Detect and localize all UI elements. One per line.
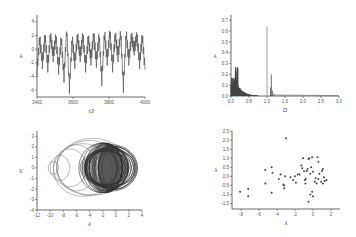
y-axis-label: λ'	[19, 168, 23, 174]
y-tick-label: 0.0	[223, 174, 230, 179]
x-tick-label: -10	[47, 213, 54, 218]
data-point	[264, 169, 266, 171]
x-tick-label: 4	[141, 213, 144, 218]
data-point	[295, 182, 297, 184]
chart-spectrum: 0.00.51.01.52.02.53.00.00.10.20.30.40.50…	[178, 0, 356, 118]
x-tick-label: 3600	[68, 100, 79, 105]
data-point	[271, 166, 273, 168]
data-point	[305, 178, 307, 180]
data-point	[304, 183, 306, 185]
x-axis-label: Ω	[283, 107, 288, 113]
y-tick-label: 0.5	[223, 165, 230, 170]
y-axis-label: λ	[214, 53, 217, 59]
data-point	[307, 168, 309, 170]
x-tick-label: 3.0	[336, 99, 343, 104]
data-point	[302, 157, 304, 159]
data-point	[294, 175, 296, 177]
x-tick-label: 0.5	[246, 99, 253, 104]
data-point	[280, 174, 282, 176]
y-tick-label: -6	[30, 88, 34, 93]
data-point	[297, 174, 299, 176]
x-tick-label: -2	[101, 213, 105, 218]
data-point	[321, 170, 323, 172]
data-point	[320, 181, 322, 183]
y-axis-label: λ	[20, 53, 23, 59]
time-series-plot: 3400360038004000-6-4-2024τ3λ	[0, 0, 178, 118]
y-tick-label: 0.4	[222, 50, 229, 55]
data-point	[312, 195, 314, 197]
data-point	[315, 177, 317, 179]
y-tick-label: 4	[31, 19, 34, 24]
x-tick-label: -4	[87, 213, 91, 218]
y-tick-label: 0.2	[222, 72, 229, 77]
y-tick-label: 0.1	[222, 83, 229, 88]
phase-portrait-plot: -12-10-8-6-4-2024-4-3-2-10123λλ'	[0, 118, 178, 237]
attractor	[48, 138, 137, 196]
spectrum-plot: 0.00.51.01.52.02.53.00.00.10.20.30.40.50…	[178, 0, 356, 118]
axes: 0.00.51.01.52.02.53.00.00.10.20.30.40.50…	[214, 15, 343, 113]
data-point	[306, 170, 308, 172]
y-tick-label: -3	[30, 197, 34, 202]
y-tick-label: -1.5	[221, 201, 229, 206]
x-tick-label: 3800	[104, 100, 115, 105]
x-tick-label: 0	[114, 213, 117, 218]
axes: 3400360038004000-6-4-2024τ3λ	[20, 15, 151, 114]
data-point	[308, 201, 310, 203]
data-point	[283, 184, 285, 186]
x-tick-label: 2	[330, 212, 333, 217]
x-tick-label: -6	[257, 212, 261, 217]
data-point	[316, 183, 318, 185]
data-point	[299, 174, 301, 176]
data-point	[318, 173, 320, 175]
data-point	[247, 188, 249, 190]
chart-time-series: 3400360038004000-6-4-2024τ3λ	[0, 0, 178, 118]
y-tick-label: 1.5	[223, 147, 230, 152]
x-tick-label: -8	[239, 212, 243, 217]
data-point	[326, 179, 328, 181]
return-map-plot: -8-6-4-202-1.5-1.0-0.50.00.51.01.52.02.5…	[178, 118, 356, 237]
data-point	[323, 176, 325, 178]
data-point	[247, 195, 249, 197]
y-tick-label: 2.5	[223, 129, 230, 134]
y-tick-label: 2.0	[223, 138, 230, 143]
data-point	[272, 172, 274, 174]
data-point	[301, 167, 303, 169]
y-tick-label: 3	[31, 134, 34, 139]
y-tick-label: 1	[31, 155, 34, 160]
x-axis-label: λ	[284, 220, 288, 226]
x-tick-label: 0	[312, 212, 315, 217]
data-point	[322, 168, 324, 170]
y-axis-label: λ	[215, 167, 218, 173]
y-tick-label: 2	[31, 144, 34, 149]
scatter-points	[239, 137, 327, 202]
data-point	[317, 161, 319, 163]
x-tick-label: 3400	[32, 100, 43, 105]
data-point	[314, 181, 316, 183]
y-tick-label: -4	[30, 208, 34, 213]
data-point	[322, 183, 324, 185]
x-tick-label: -6	[74, 213, 78, 218]
data-point	[300, 164, 302, 166]
axes: -8-6-4-202-1.5-1.0-0.50.00.51.01.52.02.5…	[215, 129, 341, 226]
y-tick-label: -4	[30, 74, 34, 79]
chart-phase-portrait: -12-10-8-6-4-2024-4-3-2-10123λλ'	[0, 118, 178, 237]
x-tick-label: 1.0	[264, 99, 271, 104]
x-axis-label: τ3	[88, 108, 94, 114]
data-point	[310, 166, 312, 168]
x-axis-label: λ	[87, 221, 91, 227]
data-point	[271, 192, 273, 194]
y-tick-label: 2	[31, 33, 34, 38]
y-tick-label: 0	[31, 47, 34, 52]
data-point	[312, 171, 314, 173]
x-tick-label: 0.0	[228, 99, 235, 104]
x-tick-label: -2	[293, 212, 297, 217]
y-tick-label: -2	[30, 60, 34, 65]
y-tick-label: 0.7	[222, 18, 229, 23]
data-point	[283, 187, 285, 189]
data-point	[309, 173, 311, 175]
data-point	[303, 170, 305, 172]
x-tick-label: -12	[34, 213, 41, 218]
x-tick-label: 2.5	[318, 99, 325, 104]
data-point	[239, 191, 241, 193]
y-tick-label: 0.5	[222, 40, 229, 45]
